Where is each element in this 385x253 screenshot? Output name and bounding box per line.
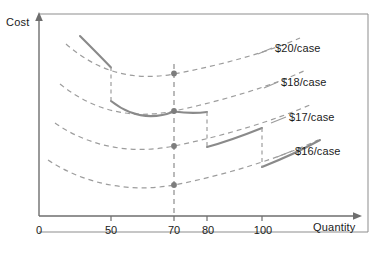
leader-line-18 <box>264 82 278 88</box>
marker-70-curve-17 <box>171 143 177 149</box>
x-tick-label-0: 0 <box>36 224 42 236</box>
dashed-curve-18 <box>60 70 306 114</box>
x-tick-label-70: 70 <box>168 224 180 236</box>
y-axis-title: Cost <box>6 16 29 28</box>
marker-70-curve-16 <box>171 182 177 188</box>
curve-label-16: $16/case <box>295 145 340 157</box>
dashed-curve-16 <box>48 140 318 188</box>
solid-segment-20 <box>80 36 111 68</box>
dashed-curve-17 <box>55 104 312 149</box>
x-tick-label-80: 80 <box>202 224 214 236</box>
x-tick-label-50: 50 <box>105 224 117 236</box>
leader-line-17 <box>271 117 286 123</box>
curve-label-17: $17/case <box>289 111 334 123</box>
chart-canvas <box>0 0 385 253</box>
x-axis-title: Quantity <box>313 221 356 233</box>
curve-label-18: $18/case <box>281 76 326 88</box>
marker-70-curve-20 <box>171 71 177 77</box>
y-axis-arrow-icon <box>35 12 43 21</box>
x-axis-arrow-icon <box>353 212 362 220</box>
cost-quantity-chart: Cost Quantity 0 50 70 80 100 $20/case $1… <box>0 0 385 253</box>
x-tick-label-100: 100 <box>254 224 272 236</box>
curve-label-20: $20/case <box>275 42 320 54</box>
leader-line-20 <box>258 48 272 54</box>
solid-segment-18 <box>111 101 207 116</box>
marker-70-curve-18 <box>171 108 177 114</box>
solid-segment-17 <box>207 128 262 147</box>
